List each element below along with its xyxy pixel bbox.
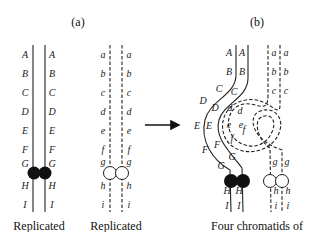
svg-text:C: C: [49, 87, 56, 98]
svg-text:D: D: [198, 95, 207, 106]
svg-text:D: D: [210, 102, 219, 113]
svg-text:i: i: [287, 200, 290, 211]
svg-text:e: e: [101, 125, 106, 136]
svg-text:H: H: [47, 180, 56, 191]
svg-text:g: g: [127, 156, 132, 167]
svg-text:F: F: [201, 144, 209, 155]
svg-text:E: E: [21, 125, 28, 136]
svg-text:b: b: [127, 68, 132, 79]
svg-text:B: B: [239, 66, 245, 77]
svg-text:e: e: [227, 119, 232, 130]
svg-text:I: I: [22, 199, 27, 210]
svg-text:A: A: [238, 47, 246, 58]
caption-middle: Replicated: [90, 219, 141, 232]
svg-text:i: i: [275, 200, 278, 211]
svg-text:E: E: [48, 125, 55, 136]
svg-text:f: f: [128, 144, 132, 155]
svg-text:f: f: [243, 124, 247, 135]
svg-text:F: F: [21, 144, 29, 155]
svg-text:h: h: [286, 185, 291, 196]
caption-left: Replicated: [13, 219, 64, 232]
svg-text:g: g: [101, 156, 106, 167]
svg-text:F: F: [213, 139, 221, 150]
svg-text:C: C: [22, 87, 29, 98]
svg-text:d: d: [127, 106, 133, 117]
svg-text:H: H: [234, 185, 243, 196]
centromere-open-icon: [104, 167, 117, 180]
svg-text:D: D: [47, 106, 56, 117]
caption-right: Four chromatids of: [211, 219, 303, 232]
svg-text:i: i: [102, 199, 105, 210]
svg-text:F: F: [48, 144, 56, 155]
svg-text:E: E: [205, 120, 212, 131]
svg-text:A: A: [48, 49, 56, 60]
svg-text:h: h: [127, 180, 132, 191]
svg-text:b: b: [272, 66, 277, 77]
svg-text:g: g: [273, 156, 278, 167]
svg-text:I: I: [49, 199, 54, 210]
svg-text:I: I: [236, 200, 241, 211]
panel-label-b: (b): [250, 15, 264, 29]
svg-text:G: G: [48, 158, 55, 169]
svg-text:C: C: [216, 83, 223, 94]
svg-text:i: i: [128, 199, 131, 210]
centromere-open-icon: [116, 167, 129, 180]
svg-text:a: a: [272, 47, 277, 58]
svg-text:G: G: [217, 160, 224, 171]
replicated-chromosome-uppercase: A B C D E F G H I A B C D E F G H I: [20, 45, 56, 212]
svg-text:A: A: [21, 49, 29, 60]
svg-text:f: f: [231, 133, 235, 144]
svg-text:f: f: [102, 144, 106, 155]
svg-text:e: e: [127, 125, 132, 136]
svg-text:d: d: [238, 105, 244, 116]
panel-label-a: (a): [71, 15, 84, 29]
svg-text:G: G: [228, 151, 235, 162]
svg-text:I: I: [224, 200, 229, 211]
svg-text:C: C: [231, 86, 238, 97]
svg-text:B: B: [49, 68, 55, 79]
svg-text:c: c: [127, 87, 132, 98]
svg-text:D: D: [20, 106, 29, 117]
svg-text:b: b: [101, 68, 106, 79]
svg-text:B: B: [226, 66, 232, 77]
svg-text:h: h: [274, 185, 279, 196]
svg-text:b: b: [284, 66, 289, 77]
svg-text:A: A: [225, 47, 233, 58]
svg-text:c: c: [272, 85, 277, 96]
svg-text:a: a: [284, 47, 289, 58]
replicated-chromosome-lowercase: a b c d e f g h i a b c d e f g h i: [101, 45, 133, 212]
svg-text:c: c: [101, 87, 106, 98]
meiosis-diagram: (a) (b) A B C D E F G H I A B C D E F G …: [0, 0, 313, 232]
svg-text:G: G: [21, 158, 28, 169]
svg-text:a: a: [101, 49, 106, 60]
svg-text:a: a: [127, 49, 132, 60]
svg-text:h: h: [101, 180, 106, 191]
svg-text:H: H: [20, 180, 29, 191]
svg-text:B: B: [22, 68, 28, 79]
svg-text:E: E: [193, 120, 200, 131]
svg-text:H: H: [222, 185, 231, 196]
svg-text:g: g: [285, 156, 290, 167]
svg-text:c: c: [284, 85, 289, 96]
svg-text:d: d: [101, 106, 107, 117]
